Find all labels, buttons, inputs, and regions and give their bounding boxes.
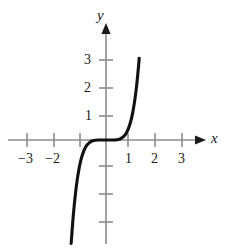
y-tick-label-pos2: 2 — [84, 81, 91, 95]
x-tick-label-pos3: 3 — [178, 152, 185, 166]
y-tick-label-pos1: 1 — [85, 109, 92, 123]
coordinate-plane — [0, 0, 229, 251]
y-axis-arrowhead — [101, 23, 110, 34]
graph-figure: y x −3 −2 1 2 3 3 2 1 — [0, 0, 229, 251]
x-axis-arrowhead — [195, 135, 206, 144]
y-axis-label: y — [97, 8, 104, 23]
x-axis-label: x — [211, 131, 218, 146]
x-tick-label-neg2: −2 — [45, 152, 60, 166]
x-tick-label-pos1: 1 — [125, 152, 132, 166]
y-tick-label-pos3: 3 — [84, 53, 91, 67]
x-tick-label-neg3: −3 — [18, 152, 33, 166]
x-tick-label-pos2: 2 — [151, 152, 158, 166]
